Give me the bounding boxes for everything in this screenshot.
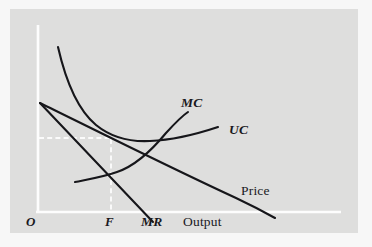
mc-curve-label: MC xyxy=(181,96,202,110)
chart-canvas xyxy=(0,0,372,247)
uc-curve-label: UC xyxy=(229,123,248,137)
mr-curve-label: MR xyxy=(141,215,162,229)
x-axis-title: Output xyxy=(183,215,222,229)
economics-figure: O F MR Output MC UC Price xyxy=(0,0,372,247)
price-line xyxy=(40,103,275,218)
origin-label: O xyxy=(26,215,36,228)
price-curve-label: Price xyxy=(241,184,270,198)
output-tick-label: F xyxy=(105,215,114,228)
